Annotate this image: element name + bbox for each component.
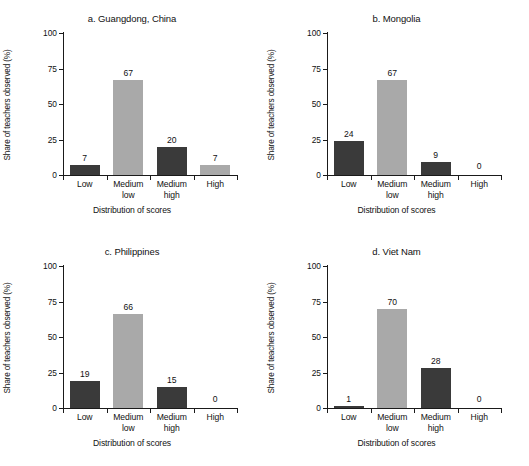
bar-value-label: 0 — [458, 394, 502, 404]
x-axis-label: Distribution of scores — [264, 205, 529, 215]
bar-value-label: 15 — [150, 375, 194, 385]
bar-series: 170280 — [327, 266, 501, 408]
bar-series: 246790 — [327, 33, 501, 175]
y-axis-tick-label: 50 — [312, 332, 321, 342]
y-axis-tick-label: 75 — [312, 297, 321, 307]
bar[interactable] — [200, 165, 230, 175]
bar[interactable] — [157, 387, 187, 408]
x-axis-category-line1: High — [452, 412, 508, 423]
bar-group: 67 — [107, 33, 151, 175]
y-axis-label: Share of teachers observed (%) — [2, 0, 14, 30]
bar-value-label: 20 — [150, 135, 194, 145]
bar[interactable] — [377, 80, 407, 175]
bar[interactable] — [334, 406, 364, 408]
bar[interactable] — [113, 80, 143, 175]
bar[interactable] — [157, 147, 187, 175]
bar-group: 7 — [194, 33, 238, 175]
y-axis-label-text: Share of teachers observed (%) — [266, 263, 278, 413]
bar-value-label: 1 — [327, 394, 371, 404]
bar[interactable] — [421, 368, 451, 408]
x-axis-category-line1: High — [188, 179, 244, 190]
bar-value-label: 24 — [327, 129, 371, 139]
bar[interactable] — [421, 162, 451, 175]
x-axis-category-label: High — [188, 412, 244, 423]
bar-value-label: 0 — [458, 161, 502, 171]
panel-title: c. Philippines — [0, 246, 264, 257]
x-axis-label: Distribution of scores — [264, 438, 529, 448]
bar-group: 19 — [63, 266, 107, 408]
chart-panel-1: a. Guangdong, ChinaShare of teachers obs… — [0, 0, 264, 233]
bar[interactable] — [334, 141, 364, 175]
bar-value-label: 7 — [63, 153, 107, 163]
x-axis-label: Distribution of scores — [0, 205, 264, 215]
bar[interactable] — [113, 314, 143, 408]
y-axis-label-text: Share of teachers observed (%) — [2, 263, 14, 413]
y-axis-tick-label: 25 — [312, 135, 321, 145]
bar-group: 15 — [150, 266, 194, 408]
y-axis-tick-label: 100 — [43, 261, 57, 271]
bar[interactable] — [70, 381, 100, 408]
plot-area: 02550751001966150 — [63, 266, 237, 408]
chart-figure: a. Guangdong, ChinaShare of teachers obs… — [0, 0, 529, 466]
y-axis-tick-label: 25 — [312, 368, 321, 378]
y-axis-tick-label: 50 — [48, 99, 57, 109]
bar[interactable] — [70, 165, 100, 175]
y-axis-tick-label: 75 — [48, 64, 57, 74]
y-axis-tick-label: 50 — [312, 99, 321, 109]
y-axis-tick-label: 25 — [48, 368, 57, 378]
bar-group: 0 — [458, 33, 502, 175]
x-axis-category-label: High — [188, 179, 244, 190]
x-axis-label: Distribution of scores — [0, 438, 264, 448]
plot-area: 0255075100246790 — [327, 33, 501, 175]
y-axis-tick-label: 100 — [307, 261, 321, 271]
y-axis-tick-label: 50 — [48, 332, 57, 342]
bar-value-label: 66 — [107, 302, 151, 312]
x-axis-category-line1: High — [188, 412, 244, 423]
y-axis-label: Share of teachers observed (%) — [266, 113, 278, 263]
bar-value-label: 67 — [107, 68, 151, 78]
bar-group: 20 — [150, 33, 194, 175]
x-axis-category-line1: High — [452, 179, 508, 190]
bar-value-label: 7 — [194, 153, 238, 163]
bar-series: 1966150 — [63, 266, 237, 408]
x-axis-category-line2: high — [408, 423, 464, 434]
bar-group: 70 — [371, 266, 415, 408]
bar-group: 9 — [414, 33, 458, 175]
bar-group: 24 — [327, 33, 371, 175]
bar-group: 0 — [194, 266, 238, 408]
y-axis-label: Share of teachers observed (%) — [2, 113, 14, 263]
chart-panel-4: d. Viet NamShare of teachers observed (%… — [264, 233, 529, 466]
y-axis-tick-label: 25 — [48, 135, 57, 145]
bar-group: 1 — [327, 266, 371, 408]
y-axis-label: Share of teachers observed (%) — [266, 0, 278, 30]
bar-value-label: 67 — [371, 68, 415, 78]
bar-value-label: 9 — [414, 150, 458, 160]
x-axis-category-label: High — [452, 179, 508, 190]
panel-title: b. Mongolia — [264, 13, 529, 24]
y-axis-tick-label: 100 — [307, 28, 321, 38]
plot-area: 0255075100767207 — [63, 33, 237, 175]
panel-title: d. Viet Nam — [264, 246, 529, 257]
plot-area: 0255075100170280 — [327, 266, 501, 408]
chart-panel-2: b. MongoliaShare of teachers observed (%… — [264, 0, 529, 233]
x-axis-category-line2: high — [144, 190, 200, 201]
x-axis-category-line2: high — [408, 190, 464, 201]
bar-group: 0 — [458, 266, 502, 408]
y-axis-tick-label: 75 — [312, 64, 321, 74]
bar-series: 767207 — [63, 33, 237, 175]
bar-value-label: 0 — [194, 394, 238, 404]
x-axis-category-label: High — [452, 412, 508, 423]
bar-group: 67 — [371, 33, 415, 175]
bar-group: 7 — [63, 33, 107, 175]
y-axis-tick-label: 75 — [48, 297, 57, 307]
y-axis-tick-label: 100 — [43, 28, 57, 38]
bar-value-label: 70 — [371, 297, 415, 307]
bar-group: 28 — [414, 266, 458, 408]
bar[interactable] — [377, 309, 407, 408]
panel-title: a. Guangdong, China — [0, 13, 264, 24]
bar-value-label: 19 — [63, 369, 107, 379]
x-axis-category-line2: high — [144, 423, 200, 434]
bar-group: 66 — [107, 266, 151, 408]
bar-value-label: 28 — [414, 356, 458, 366]
chart-panel-3: c. PhilippinesShare of teachers observed… — [0, 233, 264, 466]
